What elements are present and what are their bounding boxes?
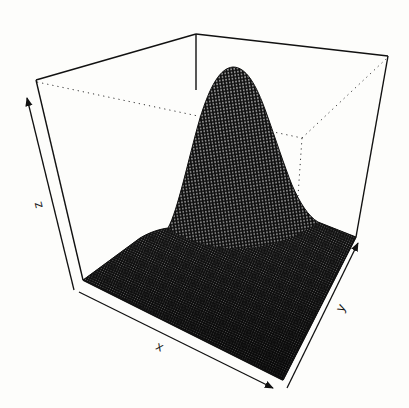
box-top-left (36, 34, 196, 80)
back-edge-vertical (298, 138, 302, 196)
box-top-right (196, 34, 388, 56)
x-axis-label: x (154, 338, 167, 355)
z-axis-label: z (29, 200, 45, 210)
back-edge-right (302, 59, 386, 138)
surface-mesh (83, 67, 356, 380)
z-axis-arrow (27, 98, 74, 290)
y-axis-label: y (332, 301, 349, 314)
box-left-vertical (36, 80, 83, 280)
surface-shading (83, 67, 356, 380)
box-right-vertical (356, 56, 388, 237)
perspective-surface-plot: x y z (0, 0, 409, 408)
